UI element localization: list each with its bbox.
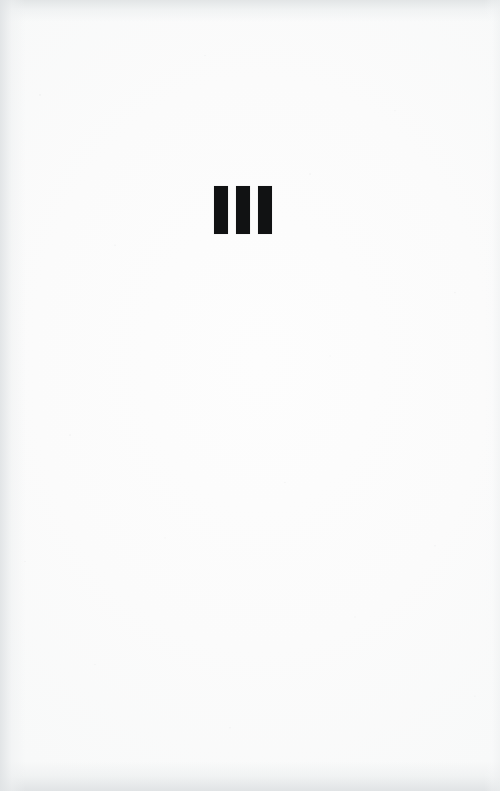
- scan-edge-right: [484, 0, 500, 791]
- paper-grain-texture: [0, 0, 500, 791]
- scan-edge-left: [0, 0, 26, 791]
- numeral-stroke: [214, 186, 228, 234]
- scan-edge-bottom: [0, 761, 500, 791]
- numeral-stroke: [258, 186, 272, 234]
- scan-edge-top: [0, 0, 500, 22]
- numeral-stroke: [236, 186, 250, 234]
- scanned-page: III: [0, 0, 500, 791]
- part-numeral-iii: III: [214, 186, 272, 234]
